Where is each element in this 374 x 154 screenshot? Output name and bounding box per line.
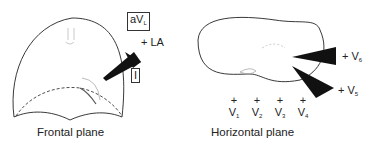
lead-i-label: I (134, 69, 137, 81)
horizontal-plane-caption: Horizontal plane (211, 126, 294, 138)
frontal-plane-caption: Frontal plane (37, 126, 104, 138)
v6-label: + V6 (342, 50, 362, 63)
v4-label: +V4 (297, 94, 309, 119)
lead-avl-label: aV (130, 13, 143, 25)
frontal-diaphragm-dashed (16, 87, 122, 116)
v2-label: +V2 (251, 94, 263, 119)
v5-label: + V5 (338, 84, 358, 97)
v1-label: +V1 (228, 94, 240, 119)
horizontal-thorax-outline (198, 17, 324, 81)
lead-avl-sub: L (143, 20, 146, 26)
v3-label: +V3 (274, 94, 286, 119)
left-arm-label: + LA (141, 36, 164, 48)
lead-i-box: I (131, 68, 140, 83)
lead-avl-box: aVL (127, 12, 150, 31)
v6-arrow (292, 47, 336, 65)
